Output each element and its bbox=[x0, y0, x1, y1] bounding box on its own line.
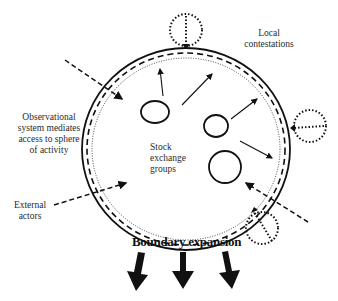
contestation-circle-right bbox=[294, 110, 326, 142]
thick-arrow-right bbox=[219, 251, 240, 289]
group-circle-2 bbox=[204, 115, 228, 137]
thick-arrow-middle bbox=[172, 252, 194, 289]
label-external-actors: External actors bbox=[10, 200, 50, 222]
thick-arrow-left bbox=[127, 252, 148, 291]
group-circle-3 bbox=[209, 151, 241, 183]
label-local-contestations: Local contestations bbox=[234, 28, 304, 50]
label-observational-system: Observational system mediates access to … bbox=[8, 112, 90, 156]
label-boundary-expansion: Boundary expansion bbox=[132, 234, 241, 250]
label-stock-exchange-groups: Stock exchange groups bbox=[150, 142, 186, 175]
group-circle-1 bbox=[141, 101, 169, 123]
boundary-expansion-arrows bbox=[127, 251, 240, 291]
